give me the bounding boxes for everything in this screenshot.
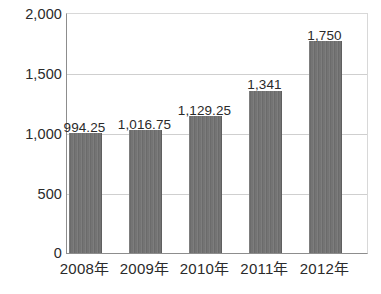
y-axis-tick-label: 2,000 [25,7,62,22]
x-axis-tick-label-2011: 2011年 [240,261,288,276]
bar-value-label-2008: 994.25 [64,121,106,135]
bar-value-label-2010: 1,129.25 [178,104,231,118]
bar-2009[interactable] [129,130,162,253]
bar-2008[interactable] [69,133,102,253]
x-axis-tick-label-2010: 2010年 [180,261,229,276]
bar-2011[interactable] [249,91,282,253]
x-axis-tick-label-2008: 2008年 [60,261,109,276]
y-axis-tick-label: 500 [38,187,63,202]
y-axis-tick-label: 1,500 [25,67,62,82]
y-axis-tick-label: 0 [54,246,62,261]
bar-chart: 2,000 1,500 1,000 500 0 994.25 1,016.75 … [0,0,381,294]
plot-area [66,13,368,254]
y-axis-tick-label: 1,000 [25,127,62,142]
x-axis-tick-label-2012: 2012年 [300,261,349,276]
bar-2012[interactable] [309,41,342,253]
bar-2010[interactable] [189,116,222,253]
x-axis-tick-label-2009: 2009年 [120,261,169,276]
bar-value-label-2012: 1,750 [307,29,341,43]
bar-value-label-2011: 1,341 [247,78,281,92]
bar-value-label-2009: 1,016.75 [118,118,171,132]
